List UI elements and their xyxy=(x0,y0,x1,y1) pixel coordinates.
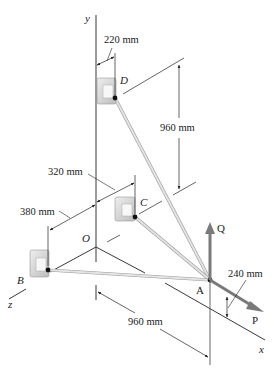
point-d xyxy=(113,96,118,101)
statics-diagram: y z x O D C xyxy=(0,0,274,374)
dimension-220-label: 220 mm xyxy=(104,34,139,45)
y-axis-label: y xyxy=(84,12,90,24)
o-c-reference-line xyxy=(107,235,120,242)
dimension-320-label: 320 mm xyxy=(48,166,83,177)
y-axis: y xyxy=(84,12,96,300)
support-c: C xyxy=(115,196,148,221)
x-axis: x xyxy=(96,247,265,355)
dimension-240-label: 240 mm xyxy=(228,268,263,279)
dimension-960-vertical-label: 960 mm xyxy=(160,122,195,133)
dimension-960-x: 960 mm xyxy=(98,292,208,357)
x-axis-label: x xyxy=(258,343,264,355)
point-b xyxy=(46,268,51,273)
dimension-960-vertical: 960 mm xyxy=(123,58,196,195)
z-axis-label: z xyxy=(7,298,13,310)
support-b: B xyxy=(17,250,50,286)
force-p-label: P xyxy=(252,314,258,326)
force-p: P xyxy=(210,280,264,326)
dimension-380-label: 380 mm xyxy=(20,206,55,217)
support-d: D xyxy=(97,74,128,104)
point-d-label: D xyxy=(119,74,128,86)
point-a-label: A xyxy=(196,284,204,296)
force-q-label: Q xyxy=(217,222,225,234)
origin-label: O xyxy=(82,232,90,244)
force-q: Q xyxy=(205,222,225,280)
point-b-label: B xyxy=(17,274,24,286)
point-c-label: C xyxy=(140,196,148,208)
dimension-960-x-label: 960 mm xyxy=(128,316,163,327)
point-c xyxy=(133,215,138,220)
